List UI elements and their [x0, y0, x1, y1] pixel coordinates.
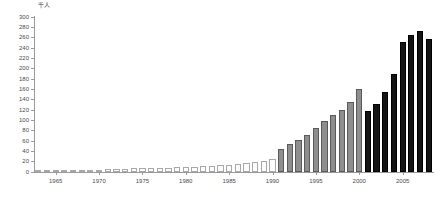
bar-1972	[113, 169, 119, 172]
bar-1969	[87, 170, 93, 172]
x-tick-mark	[56, 172, 57, 175]
y-tick-label: 260	[19, 33, 29, 41]
y-tick-label: 120	[19, 106, 29, 114]
bar-2004	[391, 74, 397, 172]
bar-1991	[278, 149, 284, 172]
bar-1997	[330, 115, 336, 172]
bar-1995	[313, 128, 319, 172]
x-tick-label: 1995	[309, 177, 322, 185]
x-tick-label: 2000	[353, 177, 366, 185]
bar-1964	[44, 170, 50, 172]
bar-1998	[339, 110, 345, 172]
y-tick-label: 180	[19, 75, 29, 83]
bar-1996	[321, 121, 327, 172]
bar-1965	[53, 170, 59, 172]
y-tick-label: 100	[19, 116, 29, 124]
y-tick-label: 160	[19, 85, 29, 93]
bar-1992	[287, 144, 293, 172]
x-tick-label: 1965	[49, 177, 62, 185]
x-tick-mark	[316, 172, 317, 175]
bar-1986	[235, 164, 241, 172]
bar-2000	[356, 89, 362, 172]
y-tick-label: 300	[19, 13, 29, 21]
bar-1978	[165, 168, 171, 172]
bar-1999	[347, 102, 353, 172]
y-tick-label: 60	[22, 137, 29, 145]
bar-1988	[252, 162, 258, 172]
bar-1970	[96, 170, 102, 172]
x-tick-mark	[359, 172, 360, 175]
bar-1982	[200, 166, 206, 172]
bar-1963	[35, 170, 41, 172]
y-tick-label: 140	[19, 95, 29, 103]
bar-1990	[269, 159, 275, 172]
bar-2005	[400, 42, 406, 172]
bar-2007	[417, 31, 423, 172]
x-tick-label: 1980	[179, 177, 192, 185]
bar-1981	[191, 167, 197, 172]
y-tick-label: 220	[19, 54, 29, 62]
y-tick-label: 200	[19, 64, 29, 72]
bar-1984	[217, 165, 223, 172]
bar-1968	[79, 170, 85, 172]
x-tick-label: 1970	[92, 177, 105, 185]
bar-1989	[261, 161, 267, 172]
x-tick-label: 1990	[266, 177, 279, 185]
x-tick-label: 1975	[136, 177, 149, 185]
x-tick-mark	[142, 172, 143, 175]
bar-chart: 千人 0204060801001201401601802002202402602…	[0, 0, 435, 200]
x-axis-line	[34, 172, 434, 173]
y-tick-label: 40	[22, 147, 29, 155]
y-tick-label: 240	[19, 44, 29, 52]
y-tick-label: 80	[22, 126, 29, 134]
y-axis-unit-label: 千人	[38, 1, 50, 9]
bar-1973	[122, 169, 128, 172]
bar-2003	[382, 92, 388, 172]
plot-area	[34, 17, 433, 172]
bar-1983	[209, 166, 215, 172]
bar-1975	[139, 168, 145, 172]
bar-1971	[105, 169, 111, 172]
bar-1979	[174, 167, 180, 172]
x-tick-mark	[99, 172, 100, 175]
x-tick-mark	[403, 172, 404, 175]
bar-2001	[365, 111, 371, 172]
bar-1966	[61, 170, 67, 172]
x-tick-mark	[273, 172, 274, 175]
bar-1993	[295, 140, 301, 172]
bar-2008	[426, 39, 432, 172]
bar-1994	[304, 135, 310, 172]
x-tick-mark	[229, 172, 230, 175]
x-tick-label: 1985	[222, 177, 235, 185]
bar-1976	[148, 168, 154, 172]
x-tick-mark	[186, 172, 187, 175]
bar-1974	[131, 168, 137, 172]
y-tick-label: 280	[19, 23, 29, 31]
bar-2002	[373, 104, 379, 172]
bar-1980	[183, 167, 189, 172]
y-tick-label: 20	[22, 157, 29, 165]
bar-1987	[243, 163, 249, 172]
bar-2006	[408, 35, 414, 172]
bar-1985	[226, 165, 232, 172]
x-tick-label: 2005	[396, 177, 409, 185]
bar-1967	[70, 170, 76, 172]
y-tick-label: 0	[26, 168, 29, 176]
bar-1977	[157, 168, 163, 172]
